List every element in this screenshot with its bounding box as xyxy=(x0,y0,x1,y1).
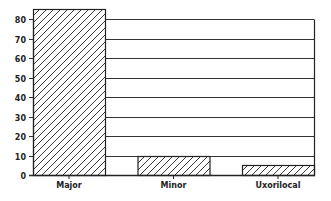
bar-uxorilocal xyxy=(243,166,315,176)
y-tick-label: 80 xyxy=(15,16,27,25)
y-axis-ticks: 01020304050607080 xyxy=(15,16,33,181)
x-tick-label: Major xyxy=(56,181,82,190)
y-tick-label: 50 xyxy=(15,75,27,84)
y-tick-label: 20 xyxy=(15,133,27,142)
x-tick-label: Uxorilocal xyxy=(256,181,301,190)
bar-chart: 01020304050607080 MajorMinorUxorilocal xyxy=(0,0,331,201)
y-tick-label: 0 xyxy=(20,172,26,181)
y-tick-label: 40 xyxy=(15,94,27,103)
y-tick-label: 70 xyxy=(15,36,27,45)
y-tick-label: 10 xyxy=(15,153,27,162)
y-tick-label: 30 xyxy=(15,114,27,123)
y-tick-label: 60 xyxy=(15,55,27,64)
bar-major xyxy=(34,10,106,176)
bar-minor xyxy=(138,157,210,176)
x-axis-labels: MajorMinorUxorilocal xyxy=(56,175,301,190)
x-tick-label: Minor xyxy=(161,181,187,190)
bars xyxy=(34,10,315,176)
